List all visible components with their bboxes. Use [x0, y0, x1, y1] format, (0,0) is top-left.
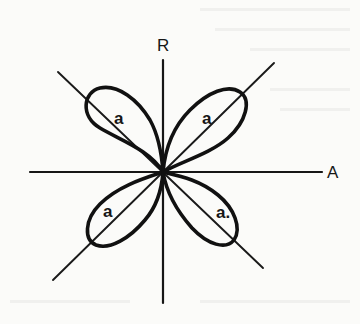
axis-label-r: R	[157, 36, 169, 55]
lobe-upper-left	[86, 87, 163, 172]
lobe-label-lower-left: a	[103, 202, 113, 221]
axis-label-a: A	[327, 163, 339, 182]
lobe-label-upper-right: a	[202, 109, 212, 128]
diagram-canvas: R A a a a a.	[0, 0, 360, 324]
lobe-label-upper-left: a	[114, 109, 124, 128]
lobe-label-lower-right: a.	[216, 203, 230, 222]
four-lobe-diagram: R A a a a a.	[0, 0, 360, 324]
